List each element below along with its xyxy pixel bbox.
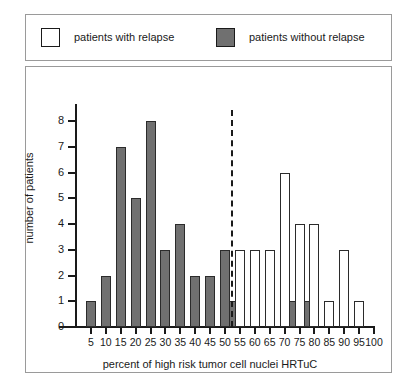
x-axis-tick xyxy=(299,328,301,334)
y-axis-tick-label: 4 xyxy=(44,218,64,229)
y-axis-tick xyxy=(68,197,75,199)
y-axis-tick-label: 3 xyxy=(44,244,64,255)
bar-with-relapseout xyxy=(160,250,170,327)
y-axis-tick xyxy=(68,300,75,302)
x-axis-tick xyxy=(239,328,241,334)
x-axis-tick xyxy=(105,328,107,334)
bar-with-relapseout xyxy=(205,276,215,328)
gray-square-icon xyxy=(216,28,235,47)
bar-with-relapse xyxy=(309,224,319,327)
y-axis-tick xyxy=(68,146,75,148)
y-axis-tick-label: 5 xyxy=(44,192,64,203)
y-axis-tick-label: 7 xyxy=(44,141,64,152)
bar-with-relapse xyxy=(324,301,334,327)
x-axis-tick xyxy=(224,328,226,334)
x-axis-tick xyxy=(209,328,211,334)
x-axis-tick xyxy=(179,328,181,334)
bar-with-relapseout xyxy=(190,276,200,328)
y-axis-line xyxy=(75,104,77,328)
bar-with-relapse xyxy=(235,250,245,327)
x-axis-tick xyxy=(373,328,375,334)
x-axis-tick xyxy=(194,328,196,334)
y-axis-title: number of patients xyxy=(23,128,35,268)
y-axis-tick xyxy=(68,223,75,225)
x-axis-tick xyxy=(343,328,345,334)
y-axis-tick xyxy=(68,172,75,174)
bar-with-relapse xyxy=(354,301,364,327)
bar-with-relapse xyxy=(339,250,349,327)
bar-with-relapseout xyxy=(101,276,111,328)
chart-legend: patients with relapse patients without r… xyxy=(25,14,392,61)
bar-with-relapse xyxy=(250,250,260,327)
x-axis-tick xyxy=(90,328,92,334)
x-axis-tick xyxy=(328,328,330,334)
y-axis-tick xyxy=(68,326,75,328)
y-axis-tick xyxy=(68,275,75,277)
bar-with-relapseout xyxy=(86,301,96,327)
y-axis-tick-label: 0 xyxy=(44,321,64,332)
chart-figure: patients with relapse patients without r… xyxy=(0,0,404,387)
x-axis-tick xyxy=(164,328,166,334)
threshold-dashed-line xyxy=(231,110,233,327)
y-axis-tick-label: 8 xyxy=(44,115,64,126)
bar-with-relapse xyxy=(280,173,290,328)
bar-with-relapseout xyxy=(175,224,185,327)
legend-item-without-relapse: patients without relapse xyxy=(216,27,365,47)
y-axis-tick xyxy=(68,120,75,122)
x-axis-tick xyxy=(284,328,286,334)
x-axis-tick xyxy=(135,328,137,334)
x-axis-tick xyxy=(150,328,152,334)
x-axis-tick-label: 100 xyxy=(361,337,387,348)
x-axis-tick xyxy=(358,328,360,334)
white-square-icon xyxy=(41,28,60,47)
x-axis-tick xyxy=(313,328,315,334)
y-axis-tick-label: 1 xyxy=(44,295,64,306)
legend-label-with-relapse: patients with relapse xyxy=(74,31,174,43)
bar-with-relapseout xyxy=(131,198,141,327)
y-axis-tick xyxy=(68,249,75,251)
x-axis-tick xyxy=(120,328,122,334)
x-axis-tick xyxy=(269,328,271,334)
y-axis-tick-label: 6 xyxy=(44,167,64,178)
bar-with-relapse xyxy=(295,224,305,327)
legend-label-without-relapse: patients without relapse xyxy=(249,31,365,43)
bar-with-relapseout xyxy=(116,147,126,327)
legend-item-with-relapse: patients with relapse xyxy=(41,27,174,47)
x-axis-tick xyxy=(254,328,256,334)
bar-with-relapse xyxy=(265,250,275,327)
y-axis-tick-label: 2 xyxy=(44,270,64,281)
bar-with-relapseout xyxy=(146,121,156,327)
x-axis-title: percent of high risk tumor cell nuclei H… xyxy=(45,358,375,370)
